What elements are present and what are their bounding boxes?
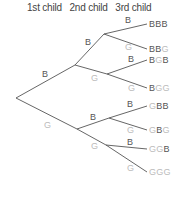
branch-label-3rd-6: G xyxy=(127,126,134,135)
branch-label-3rd-8: G xyxy=(127,164,134,173)
outcome-bbb: BBB xyxy=(149,20,168,29)
outcome-bgg: BGG xyxy=(149,84,170,93)
branch-label-3rd-7: B xyxy=(127,138,133,147)
outcome-bbg: BBG xyxy=(149,45,169,54)
branch-label-3rd-1: B xyxy=(125,16,131,25)
outcome-ggg: GGG xyxy=(149,168,171,177)
branch-label-2nd-girl-b: G xyxy=(91,142,98,151)
outcome-gbb: GBB xyxy=(149,102,169,111)
branch-label-3rd-5: B xyxy=(127,100,133,109)
outcome-ggb: GGB xyxy=(149,145,170,154)
branch-label-3rd-4: G xyxy=(128,84,135,93)
branch-label-2nd-boy-a: B xyxy=(85,38,91,47)
branch-label-1st-boy: B xyxy=(42,70,48,79)
branch-label-3rd-2: G xyxy=(125,43,132,52)
branch-label-1st-girl: G xyxy=(44,121,51,130)
branch-label-2nd-girl-a: G xyxy=(91,74,98,83)
outcome-bgb: BGB xyxy=(149,56,169,65)
branch-label-2nd-boy-b: B xyxy=(90,113,96,122)
outcome-gbg: GBG xyxy=(149,126,170,135)
branch-label-3rd-3: B xyxy=(128,55,134,64)
